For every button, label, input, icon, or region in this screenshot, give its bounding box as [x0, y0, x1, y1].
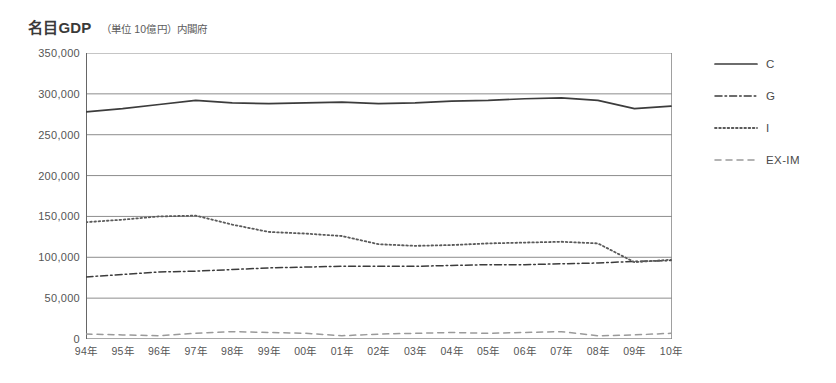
x-axis-tick-label: 01年 [331, 343, 353, 358]
legend-item-i[interactable]: I [714, 112, 832, 144]
y-axis-tick-label: 0 [74, 333, 80, 345]
title-main-text: 名目GDP [28, 16, 92, 37]
x-axis-tick-label: 04年 [440, 343, 462, 358]
series-line-ex-im [86, 332, 671, 336]
x-axis-tick-label: 10年 [660, 343, 682, 358]
series-line-i [86, 216, 671, 263]
x-axis-tick-label: 05年 [477, 343, 499, 358]
x-axis-tick-label: 06年 [514, 343, 536, 358]
series-line-g [86, 261, 671, 277]
legend-item-label: G [766, 90, 775, 102]
x-axis-tick-label: 02年 [367, 343, 389, 358]
legend-line-swatch-icon [714, 90, 758, 102]
x-axis-tick-label: 97年 [185, 343, 207, 358]
legend-line-swatch-icon [714, 122, 758, 134]
x-axis-labels: 94年95年96年97年98年99年00年01年02年03年04年05年06年0… [86, 341, 672, 365]
y-axis-labels: 050,000100,000150,000200,000250,000300,0… [0, 0, 80, 383]
legend-line-swatch-icon [714, 154, 758, 166]
legend-item-g[interactable]: G [714, 80, 832, 112]
line-chart-svg [86, 53, 672, 339]
x-axis-tick-label: 99年 [258, 343, 280, 358]
chart-page: 名目GDP （単位 10億円）内閣府 050,000100,000150,000… [0, 0, 836, 383]
legend-item-label: EX-IM [766, 154, 800, 166]
series-line-c [86, 98, 671, 112]
x-axis-tick-label: 96年 [148, 343, 170, 358]
y-axis-tick-label: 150,000 [38, 210, 80, 222]
x-axis-tick-label: 09年 [623, 343, 645, 358]
x-axis-tick-label: 95年 [111, 343, 133, 358]
y-axis-tick-label: 250,000 [38, 129, 80, 141]
x-axis-tick-label: 94年 [75, 343, 97, 358]
title-subtitle-text: （単位 10億円）内閣府 [101, 21, 208, 36]
x-axis-tick-label: 98年 [221, 343, 243, 358]
chart-legend: CGIEX-IM [714, 48, 832, 176]
legend-item-ex-im[interactable]: EX-IM [714, 144, 832, 176]
x-axis-tick-label: 07年 [550, 343, 572, 358]
legend-item-label: C [766, 58, 775, 70]
x-axis-tick-label: 08年 [587, 343, 609, 358]
y-axis-tick-label: 350,000 [38, 47, 80, 59]
y-axis-tick-label: 200,000 [38, 170, 80, 182]
y-axis-tick-label: 100,000 [38, 251, 80, 263]
x-axis-tick-label: 00年 [294, 343, 316, 358]
y-axis-tick-label: 300,000 [38, 88, 80, 100]
x-axis-tick-label: 03年 [404, 343, 426, 358]
legend-line-swatch-icon [714, 58, 758, 70]
legend-item-c[interactable]: C [714, 48, 832, 80]
legend-item-label: I [766, 122, 770, 134]
chart-plot-area [86, 53, 672, 339]
page-title: 名目GDP （単位 10億円）内閣府 [28, 16, 208, 37]
y-axis-tick-label: 50,000 [45, 292, 80, 304]
